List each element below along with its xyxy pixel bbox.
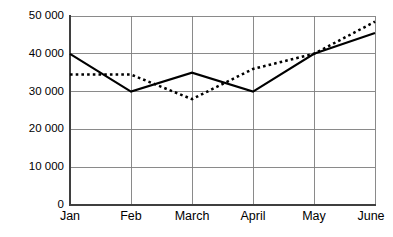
- y-tick-label: 10 000: [29, 160, 64, 172]
- plot-area-background: [70, 16, 375, 205]
- chart-canvas: 50 000 40 000 30 000 20 000 10 000 0 Jan…: [0, 0, 393, 237]
- x-tick-label-april: April: [240, 209, 265, 223]
- y-tick-label: 20 000: [29, 122, 64, 134]
- y-tick-label: 50 000: [29, 9, 64, 21]
- x-tick-label-june: June: [357, 209, 384, 223]
- y-axis-tick-labels: 50 000 40 000 30 000 20 000 10 000 0: [29, 9, 64, 210]
- x-tick-label-feb: Feb: [120, 209, 142, 223]
- x-tick-label-march: March: [175, 209, 210, 223]
- x-tick-label-jan: Jan: [60, 209, 80, 223]
- x-tick-label-may: May: [302, 209, 326, 223]
- line-chart: 50 000 40 000 30 000 20 000 10 000 0 Jan…: [0, 0, 393, 237]
- x-axis-tick-labels: Jan Feb March April May June: [60, 209, 385, 223]
- y-tick-label: 40 000: [29, 47, 64, 59]
- y-tick-label: 30 000: [29, 85, 64, 97]
